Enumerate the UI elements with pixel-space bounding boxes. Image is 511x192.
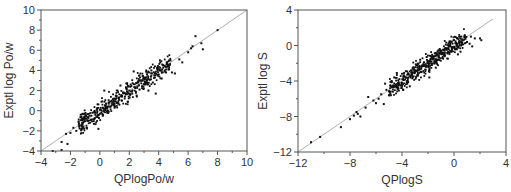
data-point: [418, 68, 420, 70]
data-point: [148, 72, 150, 74]
data-point: [61, 141, 63, 143]
data-point: [419, 67, 421, 69]
data-point: [122, 103, 124, 105]
data-point: [402, 89, 404, 91]
data-point: [131, 93, 133, 95]
data-point: [436, 59, 438, 61]
data-point: [96, 112, 98, 114]
data-point: [403, 79, 405, 81]
y-tick-label: 2: [29, 85, 35, 97]
data-point: [154, 65, 156, 67]
data-point: [168, 68, 170, 70]
data-point: [91, 121, 93, 123]
data-point: [114, 103, 116, 105]
data-point: [415, 76, 417, 78]
data-point: [367, 96, 369, 98]
data-point: [461, 42, 463, 44]
data-point: [442, 52, 444, 54]
data-point: [411, 75, 413, 77]
data-point: [178, 58, 180, 60]
data-point: [395, 93, 397, 95]
data-point: [152, 82, 154, 84]
x-tick-label: 0: [451, 157, 457, 169]
data-point: [81, 132, 83, 134]
data-point: [445, 44, 447, 46]
data-point: [94, 106, 96, 108]
data-point: [401, 73, 403, 75]
data-point: [340, 126, 342, 128]
data-point: [392, 89, 394, 91]
data-point: [464, 42, 466, 44]
data-point: [164, 71, 166, 73]
data-point: [356, 111, 358, 113]
data-point: [128, 96, 130, 98]
data-point: [463, 28, 465, 30]
data-point: [141, 73, 143, 75]
data-point: [142, 75, 144, 77]
data-point: [153, 77, 155, 79]
data-point: [94, 114, 96, 116]
data-point: [434, 60, 436, 62]
data-point: [409, 85, 411, 87]
data-point: [87, 116, 89, 118]
data-point: [407, 78, 409, 80]
x-tick-label: 10: [241, 156, 253, 168]
data-point: [145, 76, 147, 78]
data-point: [104, 99, 106, 101]
data-point: [146, 73, 148, 75]
data-point: [391, 81, 393, 83]
x-axis-title: QPlogS: [381, 173, 422, 187]
data-point: [126, 88, 128, 90]
data-point: [319, 136, 321, 138]
data-point: [140, 83, 142, 85]
data-point: [407, 82, 409, 84]
data-point: [422, 70, 424, 72]
y-axis-title: Exptl log S: [256, 52, 270, 109]
data-point: [118, 102, 120, 104]
data-point: [420, 71, 422, 73]
data-point: [164, 65, 166, 67]
scatter-chart-logpow: −4−20246810−4−20246810QPlogPo/wExptl log…: [2, 4, 253, 186]
data-point: [349, 118, 351, 120]
data-point: [463, 39, 465, 41]
data-point: [430, 67, 432, 69]
data-point: [159, 70, 161, 72]
data-point: [153, 71, 155, 73]
data-point: [169, 64, 171, 66]
data-point: [447, 42, 449, 44]
data-point: [116, 107, 118, 109]
data-point: [154, 83, 156, 85]
data-point: [430, 61, 432, 63]
data-point: [407, 72, 409, 74]
data-point: [415, 60, 417, 62]
data-point: [385, 89, 387, 91]
x-tick-label: −4: [396, 157, 409, 169]
data-point: [414, 72, 416, 74]
data-point: [165, 69, 167, 71]
data-point: [101, 97, 103, 99]
data-point: [394, 85, 396, 87]
y-axis-title: Exptl log Po/w: [2, 42, 16, 118]
data-point: [454, 51, 456, 53]
data-point: [443, 49, 445, 51]
data-point: [86, 118, 88, 120]
data-point: [439, 49, 441, 51]
data-point: [462, 47, 464, 49]
data-point: [158, 63, 160, 65]
data-point: [401, 78, 403, 80]
data-point: [150, 69, 152, 71]
y-tick-label: 4: [29, 64, 35, 76]
data-point: [447, 48, 449, 50]
x-tick-label: −8: [344, 157, 357, 169]
data-point: [455, 40, 457, 42]
data-point: [406, 74, 408, 76]
data-point: [430, 51, 432, 53]
data-point: [128, 85, 130, 87]
data-point: [435, 55, 437, 57]
data-point: [406, 70, 408, 72]
data-point: [92, 118, 94, 120]
data-point: [457, 43, 459, 45]
data-point: [101, 110, 103, 112]
data-point: [167, 56, 169, 58]
data-point: [95, 116, 97, 118]
